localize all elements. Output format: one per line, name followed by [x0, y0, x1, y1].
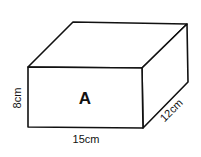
face-label: A — [79, 89, 91, 108]
prism-diagram: A 8cm 15cm 12cm — [0, 0, 201, 157]
width-label: 15cm — [73, 133, 100, 145]
height-label: 8cm — [11, 88, 23, 109]
